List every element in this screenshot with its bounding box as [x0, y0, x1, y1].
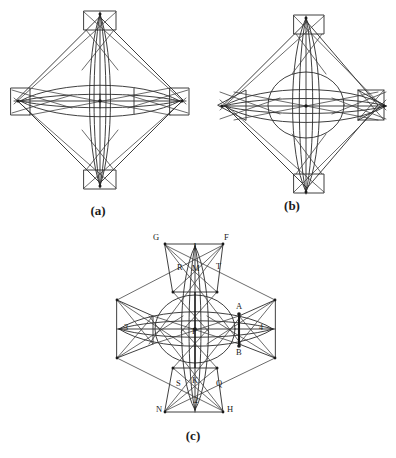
panel-a-diagram [0, 0, 200, 200]
label-vertex-K: K [192, 376, 198, 385]
panel-c-diagram [105, 232, 295, 422]
label-region-2: 2 [194, 397, 198, 405]
label-vertex-M: M [192, 264, 200, 273]
panel-b-diagram [202, 2, 394, 198]
figure-root: (a) [0, 0, 396, 458]
label-vertex-T: T [216, 262, 221, 271]
label-vertex-G: G [153, 233, 159, 242]
panel-c-caption: (c) [173, 428, 213, 444]
label-region-4: 4 [259, 324, 263, 332]
panel-a-caption: (a) [78, 203, 118, 219]
label-vertex-B: B [236, 348, 242, 357]
label-vertex-R: R [177, 263, 183, 272]
label-vertex-Q: Q [216, 379, 222, 388]
label-vertex-N: N [156, 405, 162, 414]
label-region-1: 1 [193, 243, 197, 251]
label-vertex-A: A [236, 302, 242, 311]
panel-b-caption: (b) [272, 198, 312, 214]
label-region-3: 3 [124, 324, 128, 332]
label-vertex-H: H [227, 405, 233, 414]
label-centre-P: P [192, 327, 197, 336]
label-vertex-F: F [224, 233, 229, 242]
label-vertex-S: S [176, 379, 181, 388]
